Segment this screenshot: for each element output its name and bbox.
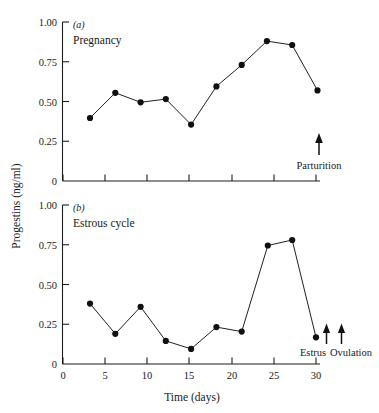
- panel-b-point: [87, 301, 93, 307]
- panel-b-point: [239, 329, 245, 335]
- panel-b-ylabel-0.75: 0.75: [39, 240, 57, 251]
- panel-a-point: [188, 122, 194, 128]
- panel-b-point: [289, 237, 295, 243]
- parturition-label: Parturition: [297, 160, 343, 171]
- panel-b-point: [163, 338, 169, 344]
- panel-a-ylabel-0.75: 0.75: [39, 57, 57, 68]
- panel-b-xlabel-15: 15: [184, 370, 195, 381]
- panel-b-point: [265, 242, 271, 248]
- panel-a-point: [264, 38, 270, 44]
- panel-b-title: Estrous cycle: [73, 217, 135, 230]
- panel-b-xlabel-20: 20: [227, 370, 238, 381]
- panel-b-point: [213, 324, 219, 330]
- plot-canvas: Progestins (ng/ml) 1.00 0.75 0.50 0.25 0: [0, 0, 379, 413]
- progestins-figure: Progestins (ng/ml) 1.00 0.75 0.50 0.25 0: [0, 0, 379, 413]
- estrus-arrow-head: [323, 324, 330, 334]
- panel-a-point: [314, 87, 320, 93]
- panel-estrous-cycle: 1.00 0.75 0.50 0.25 0 0 5 10 15 20 25 30…: [39, 200, 373, 404]
- panel-b-xlabel-0: 0: [60, 370, 65, 381]
- panel-a-point: [289, 42, 295, 48]
- panel-a-ylabel-1.00: 1.00: [39, 17, 57, 28]
- panel-a-ylabel-0: 0: [52, 176, 57, 187]
- panel-a-point: [213, 83, 219, 89]
- panel-b-ylabel-0: 0: [52, 359, 57, 370]
- ovulation-label: Ovulation: [330, 347, 373, 358]
- panel-b-point: [313, 334, 319, 340]
- panel-a-point: [239, 62, 245, 68]
- panel-b-ylabel-1.00: 1.00: [39, 200, 57, 211]
- panel-b-ylabel-0.50: 0.50: [39, 280, 57, 291]
- parturition-annotation: Parturition: [297, 133, 343, 171]
- x-axis-title: Time (days): [164, 391, 220, 404]
- panel-b-xlabel-10: 10: [142, 370, 153, 381]
- panel-a-point: [163, 96, 169, 102]
- panel-b-xlabel-30: 30: [311, 370, 322, 381]
- panel-b-point: [188, 346, 194, 352]
- panel-a-point: [112, 90, 118, 96]
- panel-b-xlabel-5: 5: [102, 370, 107, 381]
- panel-a-ylabel-0.25: 0.25: [39, 136, 57, 147]
- ovulation-annotation: Ovulation: [330, 324, 373, 359]
- panel-a-title: Pregnancy: [73, 34, 122, 47]
- ovulation-arrow-head: [338, 324, 345, 334]
- y-axis-title: Progestins (ng/ml): [10, 163, 23, 248]
- panel-b-series-line: [90, 240, 316, 349]
- panel-b-xlabel-25: 25: [269, 370, 280, 381]
- panel-a-letter: (a): [73, 19, 85, 31]
- estrus-annotation: Estrus: [300, 324, 330, 359]
- parturition-arrow-head: [315, 133, 323, 143]
- panel-pregnancy: 1.00 0.75 0.50 0.25 0 (a) Pregnancy: [39, 17, 343, 187]
- panel-a-point: [138, 99, 144, 105]
- panel-b-point: [112, 331, 118, 337]
- panel-a-point: [87, 115, 93, 121]
- panel-b-point: [138, 304, 144, 310]
- estrus-label: Estrus: [300, 347, 326, 358]
- panel-b-letter: (b): [73, 202, 85, 214]
- panel-b-ylabel-0.25: 0.25: [39, 319, 57, 330]
- panel-a-series-line: [90, 41, 318, 125]
- panel-a-ylabel-0.50: 0.50: [39, 97, 57, 108]
